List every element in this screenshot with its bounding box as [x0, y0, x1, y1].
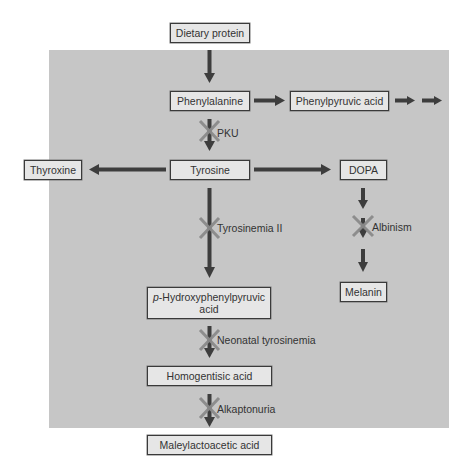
node-thyroxine: Thyroxine [24, 160, 82, 180]
label-albinism: Albinism [372, 221, 412, 233]
node-p-hydroxyphenylpyruvic-acid: p-Hydroxyphenylpyruvic acid [147, 287, 271, 319]
node-phenylpyruvic-acid: Phenylpyruvic acid [290, 91, 389, 111]
label-neonatal-tyrosinemia: Neonatal tyrosinemia [217, 334, 316, 346]
node-maleylactoacetic-acid: Maleylactoacetic acid [147, 435, 272, 455]
node-tyrosine: Tyrosine [170, 160, 250, 180]
node-p-hydroxyphenylpyruvic-line1: p-Hydroxyphenylpyruvic [153, 291, 265, 303]
node-homogentisic-acid: Homogentisic acid [147, 366, 272, 386]
node-dietary-protein: Dietary protein [170, 23, 250, 43]
node-dopa: DOPA [340, 160, 387, 180]
node-melanin: Melanin [340, 282, 387, 302]
node-phenylalanine: Phenylalanine [170, 91, 250, 111]
label-tyrosinemia-ii: Tyrosinemia II [217, 222, 282, 234]
label-pku: PKU [217, 127, 239, 139]
hydroxyphenylpyruvic-text: -Hydroxyphenylpyruvic [159, 291, 265, 303]
label-alkaptonuria: Alkaptonuria [217, 403, 275, 415]
node-p-hydroxyphenylpyruvic-line2: acid [199, 303, 218, 315]
